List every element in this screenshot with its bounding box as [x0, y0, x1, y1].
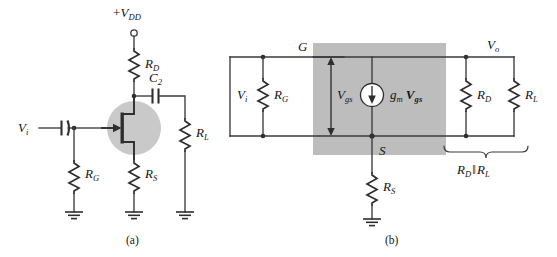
label-rd-b-sub: D [485, 94, 491, 104]
label-brace-rd-rl: RD‖RL [457, 163, 490, 176]
label-rs-a-main: R [145, 166, 153, 181]
label-vgs-b-sub: gs [345, 94, 353, 104]
label-csv-main: V [406, 87, 415, 102]
label-brace-rl-main: R [477, 162, 485, 177]
label-node-s: S [379, 144, 386, 157]
label-gm-main: g [390, 87, 397, 102]
node-rg-bottom-b [261, 134, 266, 139]
label-rl-a: RL [196, 126, 209, 139]
figure-container: +VDD Vi RD C2 RG RS RL (a) Vi G S Vo RG … [0, 0, 557, 257]
resistor-rg-a [69, 160, 79, 194]
label-rg-b-sub: G [282, 94, 288, 104]
caption-a: (a) [126, 234, 139, 246]
resistor-rd-b [461, 78, 471, 112]
label-rd-a-main: R [145, 56, 153, 71]
label-rs-b-main: R [383, 179, 391, 194]
label-rg-b: RG [274, 88, 288, 101]
label-rl-b-main: R [525, 87, 533, 102]
label-vo-b: Vo [487, 38, 499, 51]
label-rd-b: RD [477, 88, 491, 101]
label-vi-b-main: V [237, 87, 245, 102]
label-c2-a-main: C [149, 70, 158, 85]
label-c2-a: C2 [149, 71, 162, 84]
label-gm-sub: m [397, 94, 403, 104]
label-rg-a-main: R [85, 166, 93, 181]
ground-rs-a [125, 212, 143, 219]
label-csv-sub: gs [415, 94, 423, 104]
label-vo-b-sub: o [495, 44, 499, 54]
ground-rl-a [176, 212, 194, 219]
wire-c2-to-rl [159, 96, 185, 118]
label-vdd-a: +VDD [113, 6, 141, 19]
label-brace-rl-sub: L [485, 169, 490, 179]
label-rg-a: RG [85, 167, 99, 180]
label-rl-b: RL [525, 88, 538, 101]
label-rs-b: RS [383, 180, 395, 193]
resistor-rg-b [258, 78, 268, 112]
label-rl-a-main: R [196, 125, 204, 140]
ground-rg-a [65, 212, 83, 219]
resistor-rs-b [367, 172, 377, 206]
brace-rd-parallel-rl [444, 146, 528, 158]
label-vi-b: Vi [237, 88, 247, 101]
resistor-rd-a [129, 48, 139, 82]
label-gm-vgs: gmVgs [390, 88, 422, 101]
label-brace-rd-main: R [457, 162, 465, 177]
circuit-diagram-canvas [0, 0, 557, 257]
label-rs-a: RS [145, 167, 157, 180]
label-rd-b-main: R [477, 87, 485, 102]
label-brace-rd-sub: D [465, 169, 471, 179]
label-rs-b-sub: S [391, 186, 395, 196]
label-vo-b-main: V [487, 37, 495, 52]
label-rs-a-sub: S [153, 173, 157, 183]
label-vgs-b-main: V [337, 87, 345, 102]
label-rl-b-sub: L [533, 94, 538, 104]
circuit-a-group [39, 30, 194, 219]
node-rd-bottom-b [464, 134, 469, 139]
label-rl-a-sub: L [204, 132, 209, 142]
label-node-g: G [298, 40, 308, 53]
ground-rs-b [363, 219, 381, 226]
resistor-rs-a [129, 160, 139, 194]
circuit-b-group [230, 43, 528, 226]
label-rg-a-sub: G [93, 173, 99, 183]
label-rg-b-main: R [274, 87, 282, 102]
supply-terminal-vdd [131, 30, 137, 36]
label-rd-a: RD [145, 57, 159, 70]
resistor-rl-a [180, 118, 190, 152]
resistor-rl-b [509, 78, 519, 112]
label-c2-a-sub: 2 [158, 77, 162, 87]
label-vi-a: Vi [18, 121, 28, 134]
label-vgs-b: Vgs [337, 88, 353, 101]
label-vdd-sub: DD [128, 12, 140, 22]
caption-b: (b) [385, 234, 398, 246]
label-vi-a-main: V [18, 120, 26, 135]
